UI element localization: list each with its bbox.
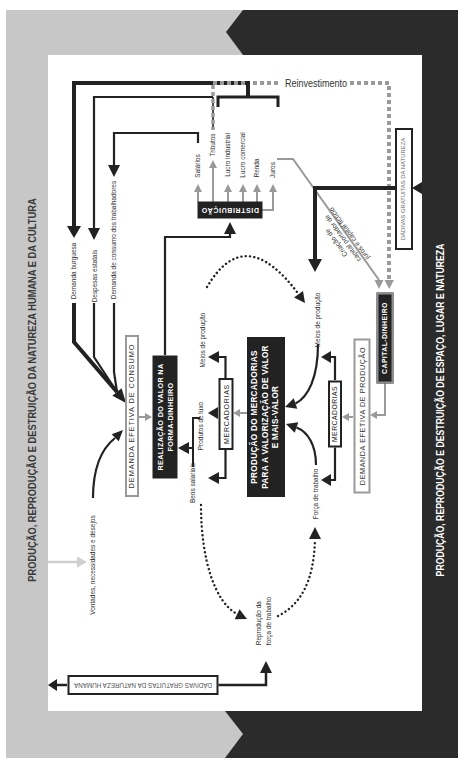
demanda-efetiva-producao-box: DEMANDA EFETIVA DE PRODUÇÃO [353, 338, 370, 493]
vontades-label: Vontades, necessidades e desejos [89, 515, 97, 614]
producao-line-2: PARA A VALORIZAÇÃO DE VALOR [261, 345, 272, 489]
demanda-trabalhadores-label: Demanda de consumo dos trabalhadores [110, 181, 118, 299]
distribuicao-text: DISTRIBUIÇÃO [201, 207, 259, 214]
tributos-label: Tributos [209, 133, 217, 156]
realizacao-line-2: FORMA-DINHEIRO [165, 382, 175, 451]
dadivas-natureza-humana-box: DÁDIVAS GRATUITAS DA NATUREZA HUMANA [67, 675, 218, 695]
capital-dinheiro-box: CAPITAL-DINHEIRO [376, 292, 393, 383]
dadivas-humana-text: DÁDIVAS GRATUITAS DA NATUREZA HUMANA [73, 682, 211, 688]
produtos-luxo-label: Produtos de luxo [197, 402, 205, 450]
demanda-producao-text: DEMANDA EFETIVA DE PRODUÇÃO [358, 346, 365, 484]
realizacao-box: REALIZAÇÃO DO VALOR NA FORMA-DINHEIRO [152, 355, 177, 478]
capital-dinheiro-text: CAPITAL-DINHEIRO [381, 302, 388, 374]
mercadorias-distribuicao-box: MERCADORIAS [218, 378, 233, 450]
reproducao-line-2: força de trabalho [264, 597, 274, 645]
mercadorias-text: MERCADORIAS [332, 385, 339, 441]
dadivas-natureza-box: DÁDIVAS GRATUITAS DA NATUREZA [395, 128, 413, 250]
mercadorias-text: MERCADORIAS [222, 384, 229, 444]
reproducao-line-1: Reprodução da [254, 597, 264, 645]
producao-line-3: E MAIS-VALOR [271, 386, 282, 449]
renda-label: Renda [253, 158, 261, 177]
left-band-title: PRODUÇÃO, REPRODUÇÃO E DESTRUIÇÃO DA NAT… [27, 198, 39, 581]
right-band-title: PRODUÇÃO, REPRODUÇÃO E DESTRUIÇÃO DE ESP… [435, 244, 446, 577]
forca-trabalho-label: Força de trabalho [312, 469, 320, 520]
realizacao-line-1: REALIZAÇÃO DO VALOR NA [155, 363, 165, 470]
producao-box: PRODUÇÃO DO MERCADORIAS PARA A VALORIZAÇ… [247, 337, 285, 497]
salarios-label: Salários [194, 154, 202, 177]
demanda-efetiva-consumo-box: DEMANDA EFETIVA DE CONSUMO [125, 335, 139, 497]
producao-line-1: PRODUÇÃO DO MERCADORIAS [250, 350, 261, 483]
demanda-burguesa-label: Demanda burguesa [70, 243, 78, 300]
meios-producao-producao-label: Meios de produção [314, 293, 322, 348]
despesas-estatais-label: Despesas estatais [91, 250, 99, 303]
lucro-industrial-label: Lucro industrial [224, 133, 232, 177]
demanda-consumo-text: DEMANDA EFETIVA DE CONSUMO [128, 344, 135, 489]
mercadorias-producao-box: MERCADORIAS [328, 380, 342, 447]
reproducao-forca-trabalho-label: Reprodução da força de trabalho [254, 597, 274, 645]
dadivas-natureza-text: DÁDIVAS GRATUITAS DA NATUREZA [401, 138, 407, 240]
meios-producao-distribuicao-label: Meios de produção [199, 313, 207, 368]
bens-salariais-label: Bens salariais [189, 463, 197, 503]
diagram-canvas: PRODUÇÃO, REPRODUÇÃO E DESTRUIÇÃO DA NAT… [0, 0, 465, 766]
reinvestimento-label: Reinvestimento [285, 78, 347, 89]
distribuicao-box: DISTRIBUIÇÃO [197, 202, 262, 219]
juros-label: Juros [269, 162, 277, 178]
lucro-comercial-label: Lucro comercial [239, 132, 247, 178]
